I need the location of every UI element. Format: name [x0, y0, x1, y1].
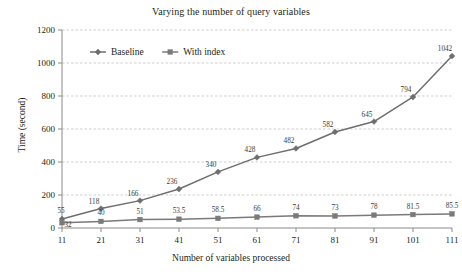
- x-tick-label: 51: [214, 235, 223, 245]
- data-point-label: 73: [331, 204, 339, 212]
- data-point-label: 32: [64, 221, 72, 229]
- data-series: [59, 53, 455, 225]
- y-tick-label: 0: [51, 223, 56, 233]
- data-point-marker: [215, 169, 221, 175]
- x-tick-label: 61: [253, 235, 262, 245]
- data-point-marker: [333, 214, 338, 219]
- x-tick-label: 81: [331, 235, 340, 245]
- data-point-marker: [450, 212, 455, 217]
- data-point-marker: [332, 129, 338, 135]
- legend-label: With index: [183, 47, 225, 57]
- y-tick-label: 1200: [37, 25, 56, 35]
- x-tick-label: 31: [136, 235, 145, 245]
- data-point-label: 53.5: [173, 207, 186, 215]
- data-point-label: 166: [128, 190, 139, 198]
- data-point-label: 66: [253, 205, 261, 213]
- x-tick-label: 41: [175, 235, 184, 245]
- data-point-marker: [294, 213, 299, 218]
- data-point-marker: [293, 146, 299, 152]
- data-point-marker: [99, 219, 104, 224]
- legend-label: Baseline: [111, 47, 144, 57]
- x-tick-label: 11: [58, 235, 67, 245]
- x-tick-label: 21: [97, 235, 106, 245]
- y-tick-label: 800: [42, 91, 56, 101]
- data-point-label: 40: [97, 209, 105, 217]
- data-point-marker: [176, 186, 182, 192]
- data-point-label: 74: [292, 204, 300, 212]
- x-tick-label: 71: [292, 235, 301, 245]
- x-tick-label: 111: [446, 235, 459, 245]
- data-point-marker: [138, 217, 143, 222]
- data-point-label: 51: [136, 208, 144, 216]
- y-tick-label: 400: [42, 157, 56, 167]
- data-point-label: 794: [401, 86, 412, 94]
- data-point-labels: 5511816623634042848258264579410423240515…: [57, 45, 458, 229]
- y-tick-label: 1000: [37, 58, 56, 68]
- data-point-label: 1042: [438, 45, 453, 53]
- y-tick-label: 600: [42, 124, 56, 134]
- x-tick-label: 101: [406, 235, 420, 245]
- y-axis-ticks: 020040060080010001200: [37, 25, 62, 233]
- data-point-label: 340: [206, 161, 217, 169]
- plot-area: 020040060080010001200 112131415161718191…: [0, 0, 462, 274]
- chart-container: Varying the number of query variables Ti…: [0, 0, 462, 274]
- data-point-label: 55: [57, 207, 65, 215]
- data-point-marker: [255, 215, 260, 220]
- data-point-label: 645: [362, 111, 373, 119]
- data-point-label: 428: [245, 146, 256, 154]
- data-point-label: 236: [167, 178, 178, 186]
- data-point-marker: [95, 49, 101, 55]
- legend: BaselineWith index: [90, 47, 226, 57]
- data-point-marker: [216, 216, 221, 221]
- data-point-label: 482: [284, 137, 295, 145]
- data-point-marker: [411, 212, 416, 217]
- data-point-label: 58.5: [212, 206, 225, 214]
- data-point-label: 118: [89, 198, 100, 206]
- data-point-marker: [168, 50, 173, 55]
- data-point-marker: [372, 213, 377, 218]
- data-point-marker: [137, 198, 143, 204]
- data-point-label: 582: [323, 121, 334, 129]
- data-point-label: 85.5: [446, 202, 459, 210]
- series-line: [62, 56, 452, 219]
- x-tick-label: 91: [370, 235, 379, 245]
- data-point-marker: [254, 154, 260, 160]
- data-point-marker: [177, 217, 182, 222]
- data-point-label: 81.5: [407, 203, 420, 211]
- data-point-label: 78: [370, 203, 378, 211]
- y-tick-label: 200: [42, 190, 56, 200]
- x-axis-ticks: 112131415161718191101111: [58, 228, 459, 245]
